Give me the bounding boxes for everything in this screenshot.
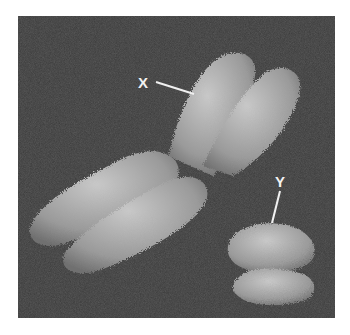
y-label: Y (275, 174, 285, 189)
y-chromosome (228, 223, 315, 305)
micrograph-frame: X Y (18, 16, 335, 318)
x-label: X (138, 75, 148, 90)
chromosome-illustration (18, 16, 335, 318)
